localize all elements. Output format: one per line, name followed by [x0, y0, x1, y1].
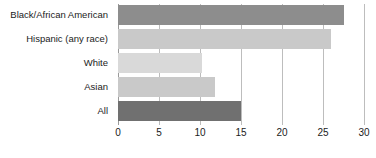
category-label-black-african-american: Black/African American [0, 10, 108, 20]
tick-label-0: 0 [106, 127, 130, 139]
category-axis: Black/African American Hispanic (any rac… [0, 5, 113, 125]
tick-label-30: 30 [352, 127, 376, 139]
category-label-asian: Asian [0, 82, 108, 92]
bar-white [118, 53, 202, 73]
bar-hispanic [118, 29, 331, 49]
plot-area [118, 4, 364, 125]
category-label-white: White [0, 58, 108, 68]
bar-black-african-american [118, 5, 344, 25]
tick-label-20: 20 [270, 127, 294, 139]
tick-label-25: 25 [311, 127, 335, 139]
bar-all [118, 101, 241, 121]
bar-chart: Black/African American Hispanic (any rac… [0, 0, 376, 158]
bar-asian [118, 77, 215, 97]
value-axis: 0 5 10 15 20 25 30 [0, 127, 376, 145]
category-label-hispanic: Hispanic (any race) [0, 34, 108, 44]
gridline-30 [364, 4, 365, 125]
category-label-all: All [0, 106, 108, 116]
tick-label-5: 5 [147, 127, 171, 139]
bar-series [118, 4, 364, 125]
tick-label-10: 10 [188, 127, 212, 139]
tick-label-15: 15 [229, 127, 253, 139]
